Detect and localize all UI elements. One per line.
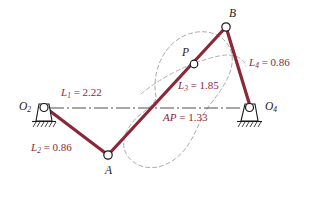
l3-value: 1.85 [200, 79, 219, 91]
l2-eq: = [41, 141, 53, 153]
point-label-b: B [229, 8, 236, 20]
pivot-joint-o4 [246, 104, 254, 112]
dimension-label-l1: L1 = 2.22 [61, 87, 102, 99]
pivot-joint-o2 [40, 104, 48, 112]
ap-name: AP [163, 111, 176, 123]
ap-eq: = [176, 111, 188, 123]
b-name: B [229, 7, 236, 19]
dimension-label-l2: L2 = 0.86 [31, 142, 72, 154]
a-name: A [105, 164, 112, 176]
ground-support-o4 [237, 104, 262, 128]
l1-value: 2.22 [83, 86, 102, 98]
l4-eq: = [259, 56, 271, 68]
dimension-label-l4: L4 = 0.86 [249, 57, 290, 69]
joint-b [222, 23, 230, 31]
point-label-o4: O4 [265, 101, 277, 113]
ground-support-o2 [32, 104, 56, 128]
linkage-figure: L1 = 2.22 L2 = 0.86 L3 = 1.85 L4 = 0.86 … [0, 0, 319, 202]
dimension-label-ap: AP = 1.33 [163, 112, 207, 123]
l2-value: 0.86 [53, 141, 72, 153]
point-label-o2: O2 [19, 101, 31, 113]
link-4 [226, 27, 250, 106]
ap-value: 1.33 [188, 111, 207, 123]
joint-p [190, 60, 198, 68]
dimension-label-l3: L3 = 1.85 [178, 80, 219, 92]
point-label-p: P [182, 47, 189, 59]
l3-eq: = [188, 79, 200, 91]
joint-a [104, 151, 112, 159]
p-name: P [182, 46, 189, 58]
l1-eq: = [71, 86, 83, 98]
l4-value: 0.86 [271, 56, 290, 68]
point-label-a: A [105, 165, 112, 177]
o2-sub: 2 [27, 105, 31, 114]
o4-sub: 4 [273, 105, 277, 114]
coupler-curve [124, 32, 233, 168]
